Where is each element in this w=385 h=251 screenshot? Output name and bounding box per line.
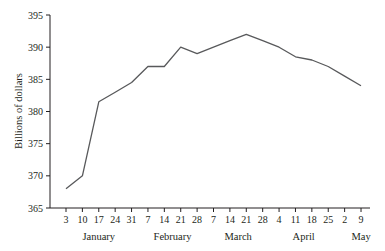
- x-tick-label: 28: [258, 214, 268, 225]
- x-axis: 31017243171421287142128411182529JanuaryF…: [50, 208, 371, 242]
- x-month-label: February: [154, 231, 193, 242]
- x-tick-label: 28: [192, 214, 202, 225]
- y-tick-label: 375: [28, 138, 43, 149]
- x-tick-label: 7: [211, 214, 216, 225]
- x-month-label: May: [351, 231, 371, 242]
- x-tick-label: 31: [127, 214, 137, 225]
- x-tick-label: 2: [342, 214, 347, 225]
- y-tick-label: 380: [28, 106, 43, 117]
- y-tick-label: 395: [28, 10, 43, 21]
- x-tick-label: 14: [159, 214, 169, 225]
- y-axis: 365370375380385390395: [28, 10, 50, 214]
- x-tick-label: 4: [277, 214, 282, 225]
- y-tick-label: 370: [28, 170, 43, 181]
- y-axis-title: Billions of dollars: [13, 73, 24, 149]
- x-tick-label: 24: [110, 214, 120, 225]
- figure-caption-clipped: [0, 246, 385, 251]
- y-tick-label: 390: [28, 42, 43, 53]
- plot-area: [66, 34, 361, 188]
- x-tick-label: 17: [94, 214, 104, 225]
- x-tick-label: 10: [77, 214, 87, 225]
- x-tick-label: 25: [323, 214, 333, 225]
- data-line: [66, 34, 361, 188]
- x-tick-label: 11: [291, 214, 301, 225]
- x-tick-label: 18: [307, 214, 317, 225]
- y-tick-label: 385: [28, 74, 43, 85]
- x-tick-label: 9: [359, 214, 364, 225]
- y-tick-label: 365: [28, 203, 43, 214]
- x-tick-label: 7: [145, 214, 150, 225]
- x-month-label: April: [293, 231, 315, 242]
- line-chart: 365370375380385390395 310172431714212871…: [0, 0, 385, 251]
- x-tick-label: 3: [64, 214, 69, 225]
- x-tick-label: 21: [176, 214, 186, 225]
- x-tick-label: 21: [241, 214, 251, 225]
- x-month-label: January: [82, 231, 115, 242]
- x-tick-label: 14: [225, 214, 235, 225]
- x-month-label: March: [224, 231, 252, 242]
